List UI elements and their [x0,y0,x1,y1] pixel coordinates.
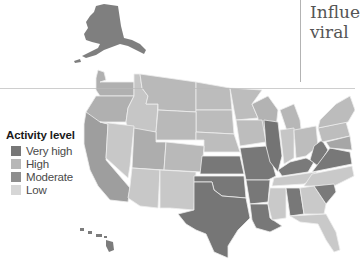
state-new-mexico [160,170,196,210]
state-north-dakota [196,82,232,110]
state-washington [96,70,134,96]
legend-title: Activity level [6,129,75,141]
state-arizona [128,168,160,208]
legend-item-moderate: Moderate [6,170,75,183]
state-iowa [236,120,266,146]
state-new-york [318,96,355,128]
state-south-dakota [196,110,234,134]
title-line-2: viral [310,22,364,42]
legend-swatch [11,172,21,182]
alaska-island [74,59,81,63]
horizontal-divider [0,88,355,89]
state-hawaii [80,228,114,252]
state-colorado [164,142,204,172]
legend-item-high: High [6,157,75,170]
legend-label: Moderate [26,171,73,183]
state-kansas [200,156,244,174]
legend-label: High [26,158,49,170]
chart-title: Influe viral [310,2,364,42]
state-wyoming [156,110,196,140]
legend-item-low: Low [6,183,75,196]
legend-item-very-high: Very high [6,144,75,157]
legend-swatch [11,159,21,169]
legend-label: Very high [26,145,72,157]
title-line-1: Influe [310,2,364,22]
legend-swatch [11,146,21,156]
legend-label: Low [26,184,47,196]
legend: Activity level Very high High Moderate L… [6,129,75,196]
state-arkansas [246,180,270,204]
state-alaska [82,4,146,58]
state-mississippi [268,188,286,220]
state-florida [290,214,340,252]
vertical-divider [300,0,301,82]
legend-swatch [11,185,21,195]
state-indiana [280,128,294,164]
